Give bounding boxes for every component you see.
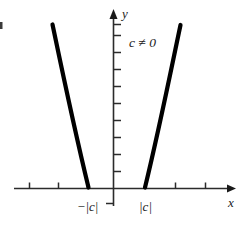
x-tick-label-minus-abs-c: −|c|: [77, 199, 99, 214]
x-axis-arrowhead: [227, 185, 236, 193]
condition-annotation: c ≠ 0: [129, 35, 156, 50]
graph-canvas: y x −|c| |c| c ≠ 0: [0, 0, 246, 231]
y-axis-label: y: [120, 6, 128, 21]
figure-container: y x −|c| |c| c ≠ 0: [0, 0, 246, 231]
y-axis-arrowhead: [110, 9, 118, 19]
x-tick-label-abs-c: |c|: [139, 199, 152, 214]
curve-left-branch: [53, 25, 89, 188]
x-axis-label: x: [227, 195, 234, 210]
scan-artifact: [0, 22, 3, 29]
